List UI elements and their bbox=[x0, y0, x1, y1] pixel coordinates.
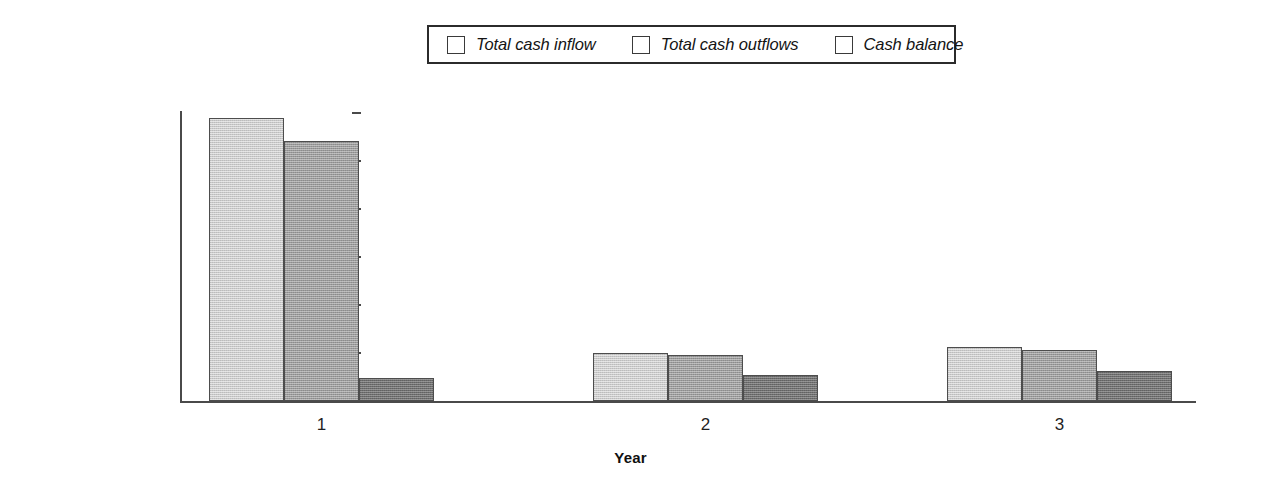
bar-group-3-series-0 bbox=[947, 347, 1022, 401]
bar-chart: Total cash inflow Total cash outflows Ca… bbox=[0, 0, 1261, 494]
x-tick-label-3: 3 bbox=[1000, 415, 1120, 435]
bar-group-1-series-1 bbox=[284, 141, 359, 401]
bar-group-3-series-1 bbox=[1022, 350, 1097, 401]
bar-group-3-series-2 bbox=[1097, 371, 1172, 401]
bar-group-2-series-0 bbox=[593, 353, 668, 401]
x-axis-title: Year bbox=[0, 449, 1261, 466]
x-tick-label-1: 1 bbox=[262, 415, 382, 435]
x-tick-label-2: 2 bbox=[646, 415, 766, 435]
bar-group-1-series-2 bbox=[359, 378, 434, 401]
bar-group-2-series-2 bbox=[743, 375, 818, 401]
bar-group-2-series-1 bbox=[668, 355, 743, 401]
bar-group-1-series-0 bbox=[209, 118, 284, 401]
